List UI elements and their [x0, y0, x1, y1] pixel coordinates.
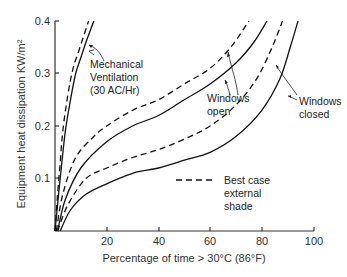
annotation-mechanical: Mechanical Ventilation (30 AC/Hr): [89, 45, 143, 96]
x-axis-label: Percentage of time > 30°C (86°F): [102, 252, 265, 264]
y-tick-0.3: 0.3: [35, 67, 50, 79]
svg-text:Ventilation: Ventilation: [90, 71, 139, 83]
x-tick-100: 100: [305, 235, 323, 247]
svg-text:open: open: [207, 105, 231, 117]
y-tick-0.4: 0.4: [35, 15, 50, 27]
svg-text:Windows: Windows: [207, 92, 250, 104]
svg-text:external: external: [224, 187, 261, 199]
x-tick-labels: 20 40 60 80 100: [101, 235, 323, 247]
curve-mechanical-ventilation-30-ac-hr-best-case-external-shade: [55, 21, 89, 231]
x-tick-40: 40: [153, 235, 165, 247]
svg-text:(30 AC/Hr): (30 AC/Hr): [90, 84, 140, 96]
y-tick-0.2: 0.2: [35, 120, 50, 132]
y-tick-0.1: 0.1: [35, 172, 50, 184]
svg-text:Mechanical: Mechanical: [90, 58, 143, 70]
x-tick-20: 20: [101, 235, 113, 247]
x-tick-60: 60: [204, 235, 216, 247]
curve-windows-open-best-case-external-shade: [56, 21, 249, 231]
curve-mechanical-ventilation-30-ac-hr: [55, 21, 94, 231]
annotation-windows-closed: Windows closed: [276, 65, 342, 120]
svg-text:Windows: Windows: [299, 95, 342, 107]
svg-text:closed: closed: [299, 108, 330, 120]
svg-text:shade: shade: [224, 200, 253, 212]
curve-windows-closed: [60, 21, 298, 231]
y-tick-labels: 0.4 0.3 0.2 0.1: [35, 15, 50, 184]
chart: 0.4 0.3 0.2 0.1 20 40 60 80 100 Percenta…: [0, 0, 347, 277]
axes: [55, 21, 314, 231]
y-axis-label: Equipment heat dissipation KW/m²: [15, 39, 27, 208]
legend-label: Best case: [224, 174, 270, 186]
legend: Best case external shade: [176, 174, 270, 212]
x-tick-80: 80: [256, 235, 268, 247]
annotation-windows-open: Windows open: [207, 52, 250, 117]
